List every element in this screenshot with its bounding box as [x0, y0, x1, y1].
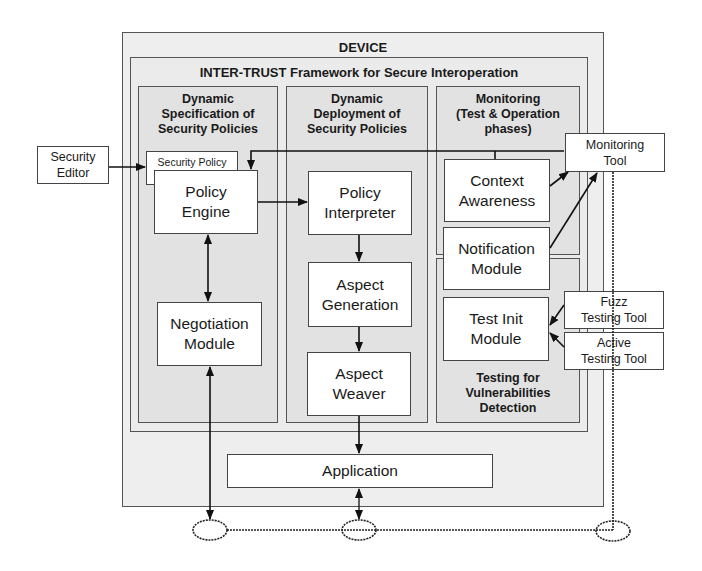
policy-interpreter-box[interactable]: Policy Interpreter	[308, 171, 412, 235]
testing-section-title: Testing for Vulnerabilities Detection	[437, 371, 579, 416]
network-node-monitor	[596, 521, 630, 541]
column-title: Dynamic Specification of Security Polici…	[139, 92, 277, 137]
column-title: Monitoring (Test & Operation phases)	[437, 92, 579, 137]
test-init-module-box[interactable]: Test Init Module	[443, 297, 549, 361]
active-testing-tool-box[interactable]: Active Testing Tool	[564, 332, 664, 370]
device-title: DEVICE	[123, 40, 603, 56]
notification-module-box[interactable]: Notification Module	[443, 227, 550, 290]
fuzz-testing-tool-box[interactable]: Fuzz Testing Tool	[564, 291, 664, 329]
aspect-weaver-box[interactable]: Aspect Weaver	[307, 352, 411, 416]
monitoring-tool-box[interactable]: Monitoring Tool	[565, 133, 665, 172]
column-dynamic-specification: Dynamic Specification of Security Polici…	[138, 86, 278, 423]
framework-title: INTER-TRUST Framework for Secure Interop…	[131, 65, 587, 81]
negotiation-module-box[interactable]: Negotiation Module	[157, 302, 262, 366]
policy-engine-box[interactable]: Policy Engine	[154, 170, 258, 234]
context-awareness-box[interactable]: Context Awareness	[444, 159, 550, 222]
application-box[interactable]: Application	[227, 454, 493, 488]
security-editor-box[interactable]: Security Editor	[37, 146, 109, 184]
network-node-application	[342, 520, 376, 540]
aspect-generation-box[interactable]: Aspect Generation	[308, 262, 412, 327]
column-title: Dynamic Deployment of Security Policies	[287, 92, 427, 137]
network-node-negotiation	[193, 520, 227, 540]
